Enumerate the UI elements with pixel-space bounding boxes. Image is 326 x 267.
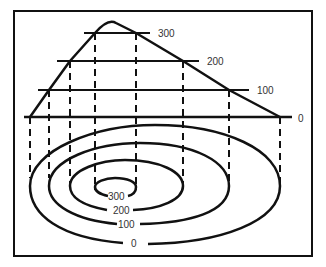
contour-label-200: 200 xyxy=(113,205,130,216)
profile-curve xyxy=(30,22,280,117)
contour-label-0: 0 xyxy=(131,238,137,249)
contour-label-100: 100 xyxy=(118,219,135,230)
topographic-diagram: 300 200 100 0 300 200 100 0 xyxy=(0,0,326,267)
contour-200 xyxy=(70,160,183,210)
profile-label-100: 100 xyxy=(257,85,274,96)
contour-100 xyxy=(49,143,229,224)
profile-label-300: 300 xyxy=(158,28,175,39)
profile-label-200: 200 xyxy=(207,56,224,67)
profile-label-0: 0 xyxy=(298,113,304,124)
contour-label-300: 300 xyxy=(108,191,125,202)
